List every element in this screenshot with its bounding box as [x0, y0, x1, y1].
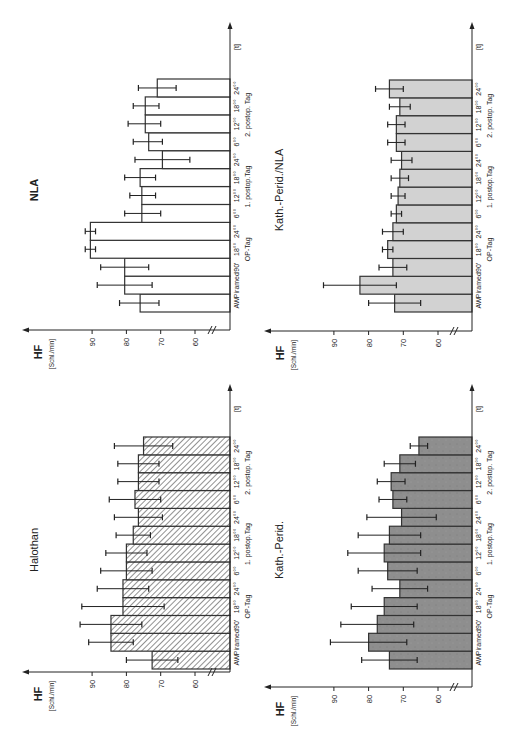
panel-kath-perid-nla: AWPiramed90'18°°24°°6°°12°°18°°24°°6°°12…	[264, 22, 494, 370]
time-tick-label: 18°°	[475, 600, 482, 614]
time-tick-label: 24°°	[233, 81, 240, 95]
hf-tick-label: 90	[88, 680, 97, 688]
group-label: 1. postop.Tag	[244, 523, 252, 565]
panel-title: NLA	[28, 179, 40, 202]
bar	[90, 222, 230, 240]
group-label: OP-Tag	[244, 237, 252, 261]
arrow-up-icon	[228, 384, 233, 391]
group-label: OP-Tag	[486, 238, 494, 262]
panel-kath-perid: AWPiramed90'18°°24°°6°°12°°18°°24°°6°°12…	[264, 384, 494, 726]
time-tick-label: 18°°	[233, 242, 240, 256]
time-tick-label: 24°°	[233, 224, 240, 238]
time-tick-label: 6°°	[233, 495, 240, 505]
hf-tick-label: 60	[434, 339, 443, 347]
bar	[400, 169, 472, 187]
bar	[396, 205, 472, 223]
time-axis-label: [t]	[475, 44, 483, 50]
time-tick-label: 18°°	[475, 171, 482, 185]
time-tick-label: 12°°	[475, 546, 482, 560]
hf-tick-label: 80	[365, 339, 374, 347]
figure: AWPiramed90'18°°24°°6°°12°°18°°24°°6°°12…	[0, 0, 518, 741]
time-tick-label: 24°°	[475, 439, 482, 453]
time-tick-label: Piramed	[475, 272, 482, 298]
group-label: 1. postop.Tag	[486, 523, 494, 565]
hf-axis-unit: [Schl./min]	[290, 696, 298, 727]
time-tick-label: 18°°	[475, 243, 482, 257]
panel-title: Kath.-Perid./NLA	[273, 148, 285, 231]
time-tick-label: 90'	[233, 263, 240, 272]
time-tick-label: 6°°	[475, 138, 482, 148]
bar	[393, 223, 472, 241]
hf-axis-unit: [Schl./min]	[290, 340, 298, 371]
hf-tick-label: 70	[157, 680, 166, 688]
time-tick-label: 24°°	[475, 153, 482, 167]
time-tick-label: 6°°	[233, 208, 240, 218]
time-tick-label: 24°°	[475, 582, 482, 596]
time-tick-label: 24°°	[233, 439, 240, 453]
group-label: 1. postop.Tag	[486, 166, 494, 208]
time-tick-label: 12°°	[233, 546, 240, 560]
group-label: 1. postop.Tag	[244, 165, 252, 207]
time-tick-label: Piramed	[233, 629, 240, 655]
hf-axis-label: HF	[274, 701, 286, 716]
time-tick-label: 18°°	[233, 600, 240, 614]
time-tick-label: 12°°	[475, 475, 482, 489]
arrow-up-icon	[470, 384, 475, 391]
panel-halothan: AWPiramed90'18°°24°°6°°12°°18°°24°°6°°12…	[22, 384, 252, 711]
time-tick-label: 24°°	[475, 510, 482, 524]
hf-tick-label: 80	[365, 695, 374, 703]
panel-nla: AWPiramed90'18°°24°°6°°12°°18°°24°°6°°12…	[22, 22, 252, 369]
time-tick-label: 12°°	[233, 475, 240, 489]
time-axis-label: [t]	[233, 406, 241, 412]
hf-axis-label: HF	[32, 344, 44, 359]
panel-title: Kath.-Perid.	[273, 521, 285, 579]
time-tick-label: 24°°	[475, 82, 482, 96]
hf-tick-label: 90	[330, 339, 339, 347]
time-tick-label: 6°°	[475, 495, 482, 505]
panel-title: Halothan	[28, 528, 40, 572]
chart-canvas: AWPiramed90'18°°24°°6°°12°°18°°24°°6°°12…	[0, 0, 518, 741]
hf-axis-unit: [Schl./min]	[48, 681, 56, 712]
hf-axis-label: HF	[274, 345, 286, 360]
hf-tick-label: 90	[88, 338, 97, 346]
hf-axis-unit: [Schl./min]	[48, 339, 56, 370]
group-label: 2. postop. Tag	[244, 451, 252, 495]
bar	[388, 241, 472, 259]
hf-tick-label: 80	[122, 680, 131, 688]
hf-tick-label: 80	[122, 338, 131, 346]
time-tick-label: 24°°	[233, 153, 240, 167]
time-tick-label: 18°°	[475, 457, 482, 471]
time-tick-label: 90'	[475, 263, 482, 272]
time-tick-label: 6°°	[475, 566, 482, 576]
group-label: OP-Tag	[486, 595, 494, 619]
time-tick-label: 18°°	[233, 457, 240, 471]
group-label: 2. postop. Tag	[244, 93, 252, 137]
time-tick-label: 18°°	[233, 528, 240, 542]
hf-axis-label: HF	[32, 686, 44, 701]
arrow-left-icon	[22, 670, 29, 675]
time-tick-label: 24°°	[233, 510, 240, 524]
hf-tick-label: 70	[399, 339, 408, 347]
time-tick-label: 12°°	[233, 189, 240, 203]
time-tick-label: 18°°	[475, 100, 482, 114]
bar	[396, 116, 472, 134]
time-tick-label: Piramed	[233, 272, 240, 298]
group-label: 2. postop. Tag	[486, 451, 494, 495]
arrow-left-icon	[22, 328, 29, 333]
time-tick-label: 18°°	[233, 99, 240, 113]
bar	[398, 187, 472, 205]
group-label: 2. postop. Tag	[486, 94, 494, 138]
hf-tick-label: 70	[399, 695, 408, 703]
hf-tick-label: 60	[191, 680, 200, 688]
time-tick-label: 24°°	[233, 582, 240, 596]
arrow-left-icon	[264, 329, 271, 334]
group-label: OP-Tag	[244, 595, 252, 619]
hf-tick-label: 60	[191, 338, 200, 346]
time-tick-label: 12°°	[475, 189, 482, 203]
time-tick-label: Piramed	[475, 629, 482, 655]
time-tick-label: 6°°	[233, 137, 240, 147]
bar	[396, 134, 472, 152]
time-tick-label: 6°°	[233, 566, 240, 576]
time-tick-label: 18°°	[475, 528, 482, 542]
time-tick-label: 12°°	[475, 118, 482, 132]
